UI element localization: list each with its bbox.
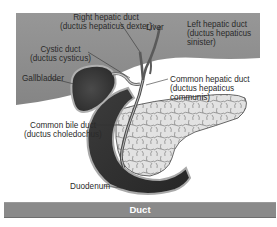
left-hepatic-duct-latin-2-text: sinister) [187,38,251,47]
common-hepatic-duct-latin-1-text: (ductus hepaticus [170,84,250,93]
common-bile-duct-text: Common bile duct [24,121,96,130]
common-hepatic-duct-latin-2-text: communis) [170,93,250,102]
label-gallbladder: Gallbladder [22,74,64,83]
label-cystic-duct: Cystic duct (ductus cysticus) [30,45,91,63]
label-common-hepatic-duct: Common hepatic duct (ductus hepaticus co… [170,75,250,102]
common-hepatic-duct-text: Common hepatic duct [170,75,250,84]
cystic-duct-latin-text: (ductus cysticus) [30,54,91,63]
caption-bar: Duct [4,202,276,218]
label-common-bile-duct: Common bile duct (ductus choledochus) [24,121,96,139]
label-liver: Liver [146,23,164,32]
left-hepatic-duct-text: Left hepatic duct [187,20,251,29]
figure-caption: Duct [4,204,276,216]
right-hepatic-duct-latin-text: (ductus hepaticus dexter) [60,22,152,31]
anatomy-diagram: Right hepatic duct (ductus hepaticus dex… [0,0,277,227]
cystic-duct-text: Cystic duct [30,45,91,54]
common-bile-duct-latin-text: (ductus choledochus) [24,130,96,139]
label-right-hepatic-duct: Right hepatic duct (ductus hepaticus dex… [60,13,152,31]
right-hepatic-duct-text: Right hepatic duct [60,13,152,22]
label-duodenum: Duodenum [70,182,110,191]
label-left-hepatic-duct: Left hepatic duct (ductus hepaticus sini… [187,20,251,47]
left-hepatic-duct-latin-1-text: (ductus hepaticus [187,29,251,38]
